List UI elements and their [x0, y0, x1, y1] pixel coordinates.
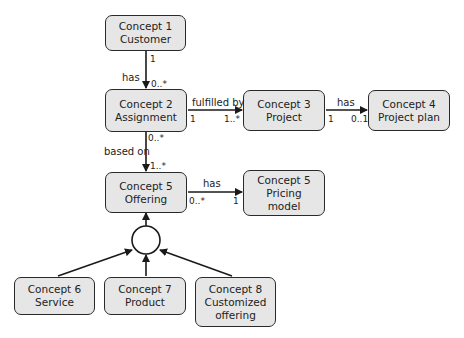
multiplicity: 1	[190, 114, 196, 124]
concept-customer[interactable]: Concept 1 Customer	[105, 15, 186, 51]
multiplicity: 0..*	[148, 133, 164, 143]
relation-label-fulfilled-by: fulfilled by	[192, 97, 244, 108]
concept-title: Concept 2	[119, 98, 172, 111]
multiplicity: 1	[150, 54, 156, 64]
concept-name: Product	[125, 296, 165, 309]
concept-title: Concept 4	[382, 98, 435, 111]
concept-name-cont: offering	[215, 309, 256, 322]
relation-label-has: has	[203, 178, 221, 189]
concept-title: Concept 5	[119, 180, 172, 193]
concept-project[interactable]: Concept 3 Project	[243, 90, 325, 131]
concept-name-cont: model	[268, 200, 301, 213]
multiplicity: 0..*	[189, 196, 205, 206]
concept-title: Concept 1	[119, 20, 172, 33]
relation-label-based-on: based on	[104, 146, 150, 157]
multiplicity: 0..*	[151, 79, 167, 89]
concept-pricing-model[interactable]: Concept 5 Pricing model	[243, 170, 325, 216]
relation-label-has: has	[122, 72, 140, 83]
specialization-circle	[132, 226, 160, 254]
edge-customized-specialization	[160, 250, 232, 276]
multiplicity: 0..1	[351, 114, 368, 124]
edge-service-specialization	[58, 250, 132, 276]
concept-name: Offering	[125, 193, 168, 206]
concept-name: Project plan	[378, 111, 440, 124]
multiplicity: 1	[328, 114, 334, 124]
concept-assignment[interactable]: Concept 2 Assignment	[105, 89, 187, 132]
relation-label-has: has	[337, 97, 355, 108]
concept-title: Concept 5	[257, 174, 310, 187]
multiplicity: 1	[233, 196, 239, 206]
concept-name: Pricing	[266, 187, 301, 200]
concept-product[interactable]: Concept 7 Product	[104, 277, 186, 315]
concept-offering[interactable]: Concept 5 Offering	[105, 172, 187, 213]
concept-service[interactable]: Concept 6 Service	[14, 277, 95, 315]
concept-project-plan[interactable]: Concept 4 Project plan	[368, 90, 450, 131]
concept-name: Customized	[205, 296, 267, 309]
concept-name: Service	[35, 296, 74, 309]
multiplicity: 1..*	[150, 161, 166, 171]
concept-title: Concept 7	[118, 283, 171, 296]
concept-title: Concept 6	[28, 283, 81, 296]
multiplicity: 1..*	[224, 114, 240, 124]
concept-name: Project	[266, 111, 302, 124]
concept-name: Customer	[120, 33, 171, 46]
concept-customized-offering[interactable]: Concept 8 Customized offering	[195, 277, 276, 327]
concept-title: Concept 8	[209, 283, 262, 296]
concept-title: Concept 3	[257, 98, 310, 111]
concept-name: Assignment	[115, 111, 177, 124]
